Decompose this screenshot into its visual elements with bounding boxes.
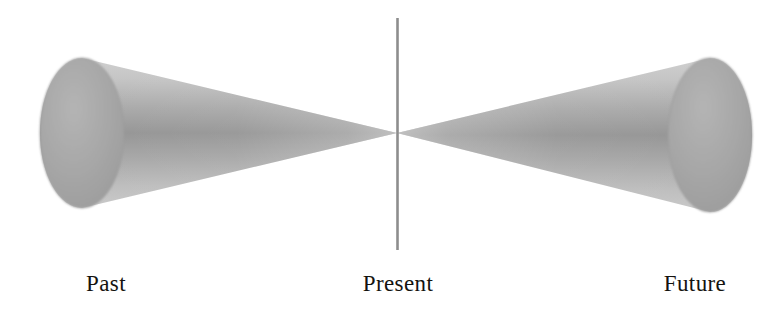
past-label: Past <box>86 272 126 295</box>
past-cone-cap <box>40 58 124 208</box>
past-cone-cap-group <box>40 58 124 208</box>
future-cone-cap-group <box>668 58 752 212</box>
light-cone-graphic <box>0 0 782 313</box>
future-cone-cap <box>668 58 752 212</box>
present-label: Present <box>363 272 434 295</box>
light-cone-figure: Past Present Future <box>0 0 782 313</box>
future-label: Future <box>664 272 726 295</box>
